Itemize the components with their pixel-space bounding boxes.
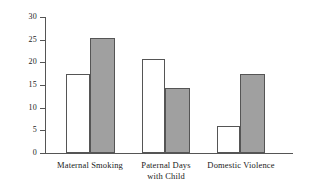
y-tick-label: 15 [29,81,37,89]
plot-area [45,17,293,153]
y-tick-label: 25 [29,36,37,44]
bar-open-0 [66,74,90,153]
bar-filled-1 [165,88,190,153]
y-tick-label: 20 [29,58,37,66]
bar-open-2 [217,126,240,153]
bar-chart: 051015202530 Maternal SmokingPaternal Da… [0,0,311,194]
y-tick-label: 10 [29,104,37,112]
bar-filled-0 [90,38,115,153]
bar-open-1 [142,59,165,153]
y-tick-label: 0 [33,149,37,157]
y-tick-mark [40,153,45,154]
category-label-2: Domestic Violence [181,160,301,171]
y-tick-label: 5 [33,126,37,134]
x-axis-line [45,153,293,154]
y-tick-label: 30 [29,13,37,21]
bar-filled-2 [240,74,265,153]
